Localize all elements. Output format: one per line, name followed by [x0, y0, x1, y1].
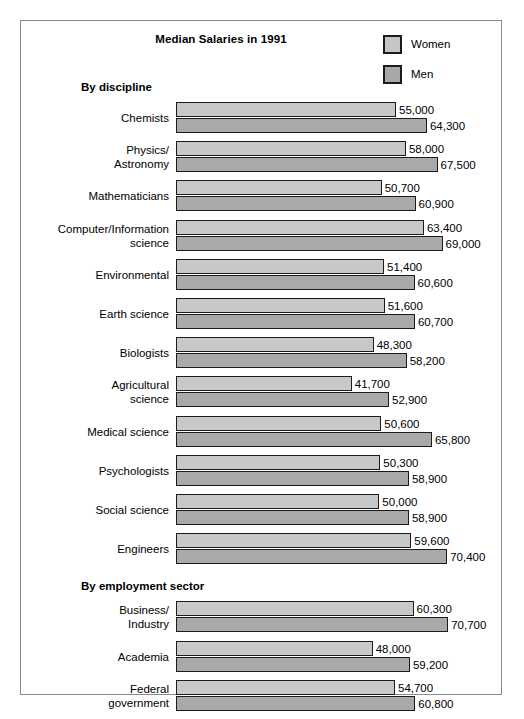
category-label-line: Physics/ [21, 143, 169, 157]
bar-value-women: 63,400 [427, 221, 462, 236]
bar-value-men: 58,900 [412, 472, 447, 487]
category-label-line: Business/ [21, 603, 169, 617]
bar-value-women: 55,000 [399, 103, 434, 118]
bar-value-women: 50,600 [384, 417, 419, 432]
category-label-line: Chemists [21, 111, 169, 125]
bar-value-men: 70,400 [450, 550, 485, 565]
bar-men [176, 432, 432, 447]
category-label-line: Federal [21, 682, 169, 696]
category-label: Environmental [21, 268, 169, 282]
bar-value-men: 60,600 [418, 276, 453, 291]
category-label-line: Earth science [21, 307, 169, 321]
category-label: Chemists [21, 111, 169, 125]
category-label: Physics/Astronomy [21, 143, 169, 171]
bar-value-women: 50,300 [383, 456, 418, 471]
bar-value-men: 64,300 [430, 119, 465, 134]
category-label: Psychologists [21, 464, 169, 478]
bar-value-men: 60,800 [418, 697, 453, 712]
bar-value-men: 70,700 [451, 618, 486, 633]
category-label-line: Medical science [21, 425, 169, 439]
bar-value-women: 54,700 [398, 681, 433, 696]
bar-value-men: 52,900 [392, 393, 427, 408]
bar-women [176, 259, 384, 274]
category-label: Business/Industry [21, 603, 169, 631]
bar-women [176, 455, 380, 470]
bar-value-women: 60,300 [417, 602, 452, 617]
bar-men [176, 617, 448, 632]
bar-value-women: 41,700 [355, 377, 390, 392]
category-label: Federalgovernment [21, 682, 169, 710]
category-label: Medical science [21, 425, 169, 439]
category-label-line: Astronomy [21, 157, 169, 171]
bar-value-women: 48,000 [376, 642, 411, 657]
bar-value-women: 59,600 [414, 534, 449, 549]
bar-men [176, 696, 415, 711]
bar-women [176, 641, 373, 656]
bar-men [176, 196, 416, 211]
bar-men [176, 549, 447, 564]
bar-men [176, 314, 415, 329]
category-label-line: Environmental [21, 268, 169, 282]
bar-men [176, 118, 427, 133]
bar-value-men: 58,900 [412, 511, 447, 526]
chart-frame: Median Salaries in 1991 Women Men By dis… [20, 20, 502, 695]
bar-men [176, 275, 415, 290]
bar-value-women: 51,400 [387, 260, 422, 275]
bar-men [176, 157, 438, 172]
category-label: Earth science [21, 307, 169, 321]
bar-women [176, 494, 379, 509]
category-label: Mathematicians [21, 189, 169, 203]
category-label-line: Industry [21, 617, 169, 631]
bar-value-women: 50,000 [382, 495, 417, 510]
bar-value-men: 60,900 [419, 197, 454, 212]
bar-women [176, 220, 424, 235]
category-label: Computer/Informationscience [21, 222, 169, 250]
category-label: Engineers [21, 542, 169, 556]
category-label: Academia [21, 650, 169, 664]
bar-value-men: 60,700 [418, 315, 453, 330]
bar-value-men: 59,200 [413, 658, 448, 673]
section-header-discipline: By discipline [81, 81, 152, 93]
category-label-line: government [21, 696, 169, 710]
bar-value-women: 58,000 [409, 142, 444, 157]
bar-women [176, 337, 374, 352]
category-label-line: Mathematicians [21, 189, 169, 203]
bar-men [176, 471, 409, 486]
category-label-line: Agricultural [21, 378, 169, 392]
category-label-line: science [21, 236, 169, 250]
category-label-line: Engineers [21, 542, 169, 556]
plot-area: By disciplineChemists55,00064,300Physics… [21, 21, 501, 694]
category-label-line: science [21, 392, 169, 406]
category-label-line: Academia [21, 650, 169, 664]
bar-men [176, 392, 389, 407]
category-label-line: Biologists [21, 346, 169, 360]
category-label: Biologists [21, 346, 169, 360]
category-label-line: Social science [21, 503, 169, 517]
bar-value-women: 51,600 [388, 299, 423, 314]
bar-men [176, 353, 407, 368]
category-label: Social science [21, 503, 169, 517]
bar-women [176, 416, 381, 431]
bar-men [176, 236, 443, 251]
bar-women [176, 533, 411, 548]
section-header-employment-sector: By employment sector [81, 580, 204, 592]
bar-men [176, 510, 409, 525]
bar-value-women: 48,300 [377, 338, 412, 353]
bar-value-men: 65,800 [435, 433, 470, 448]
category-label-line: Computer/Information [21, 222, 169, 236]
category-label-line: Psychologists [21, 464, 169, 478]
bar-women [176, 601, 414, 616]
bar-women [176, 680, 395, 695]
bar-women [176, 102, 396, 117]
bar-women [176, 141, 406, 156]
bar-men [176, 657, 410, 672]
bar-value-women: 50,700 [385, 181, 420, 196]
bar-value-men: 69,000 [446, 237, 481, 252]
bar-women [176, 376, 352, 391]
bar-value-men: 67,500 [441, 158, 476, 173]
category-label: Agriculturalscience [21, 378, 169, 406]
bar-value-men: 58,200 [410, 354, 445, 369]
bar-women [176, 298, 385, 313]
bar-women [176, 180, 382, 195]
